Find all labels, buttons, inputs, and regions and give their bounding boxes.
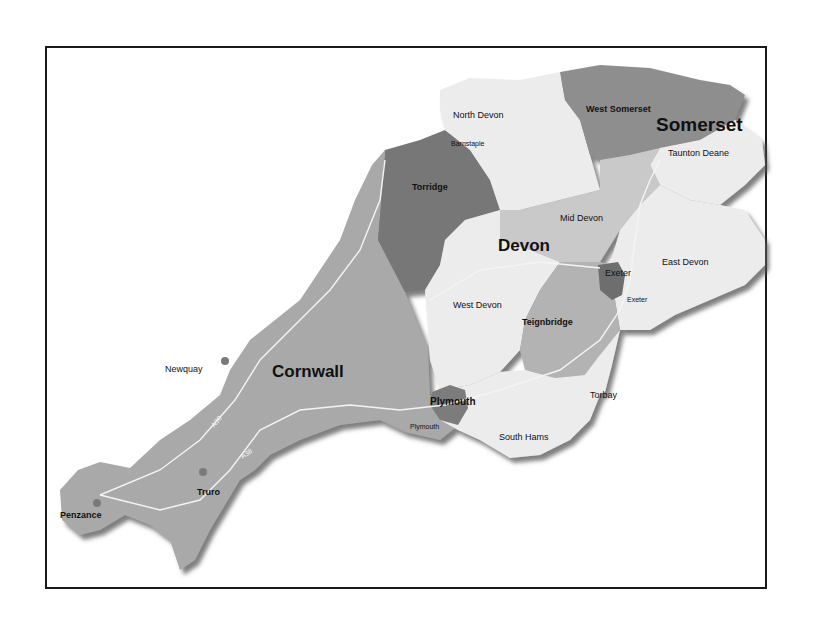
town-marker-truro [199, 468, 207, 476]
label-plymouth-town: Plymouth [410, 423, 439, 430]
label-exeter: Exeter [605, 268, 631, 278]
label-penzance: Penzance [60, 510, 102, 520]
label-east-devon: East Devon [662, 257, 709, 267]
label-west-somerset: West Somerset [586, 104, 651, 114]
town-marker-penzance [93, 499, 101, 507]
label-cornwall: Cornwall [272, 362, 344, 382]
label-barnstaple: Barnstaple [451, 140, 484, 147]
label-north-devon: North Devon [453, 110, 504, 120]
label-truro: Truro [197, 487, 220, 497]
town-marker-newquay [221, 357, 229, 365]
label-plymouth: Plymouth [430, 396, 476, 407]
label-torbay: Torbay [590, 390, 617, 400]
label-mid-devon: Mid Devon [560, 213, 603, 223]
label-taunton-deane: Taunton Deane [668, 148, 729, 158]
label-devon: Devon [498, 236, 550, 256]
label-teignbridge: Teignbridge [522, 317, 573, 327]
label-west-devon: West Devon [453, 300, 502, 310]
map-canvas [0, 0, 815, 633]
label-torridge: Torridge [412, 182, 448, 192]
label-exeter-town: Exeter [627, 296, 647, 303]
label-newquay: Newquay [165, 364, 203, 374]
label-somerset: Somerset [656, 114, 743, 136]
label-south-hams: South Hams [499, 432, 549, 442]
